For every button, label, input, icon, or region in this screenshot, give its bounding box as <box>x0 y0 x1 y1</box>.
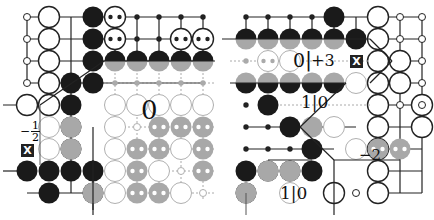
white-stone <box>105 7 126 28</box>
gray-half-stone <box>236 39 257 50</box>
dot-mark <box>205 125 209 129</box>
black-stone <box>17 161 38 182</box>
dot-mark <box>139 169 143 173</box>
dot-mark <box>139 147 143 151</box>
black-half-stone <box>324 29 345 39</box>
small-point <box>265 14 270 19</box>
faded-white-stone <box>105 95 126 116</box>
small-point <box>287 146 292 151</box>
dot-mark <box>205 147 209 151</box>
dot-mark <box>183 125 187 129</box>
black-half-stone <box>258 29 279 39</box>
dot-mark <box>196 169 200 173</box>
small-white-point <box>397 102 404 109</box>
black-stone <box>302 139 323 160</box>
black-half-stone <box>258 83 279 94</box>
gray-stone <box>61 139 82 160</box>
black-half-stone <box>236 29 257 39</box>
black-stone <box>39 183 60 204</box>
white-stone <box>105 29 126 50</box>
dot-mark <box>108 15 112 19</box>
left-board-x-marker: X <box>21 144 34 157</box>
gray-half-stone <box>105 61 126 72</box>
black-stone <box>39 161 60 182</box>
gray-half-stone <box>280 73 301 84</box>
small-white-point <box>419 14 426 21</box>
white-stone <box>39 7 60 28</box>
small-white-point <box>419 36 426 43</box>
small-white-point <box>200 190 207 197</box>
dot-mark <box>117 37 121 41</box>
small-white-point <box>24 80 31 87</box>
dot-mark <box>161 147 165 151</box>
white-stone <box>368 183 389 204</box>
black-stone <box>83 29 104 50</box>
gray-half-stone <box>171 61 192 72</box>
small-point <box>309 14 314 19</box>
dot-mark <box>205 37 209 41</box>
left-board-fraction-half: 1 2 <box>31 120 40 143</box>
small-point <box>243 102 248 107</box>
small-point <box>265 124 270 129</box>
gray-stone <box>149 183 170 204</box>
dot-mark <box>196 147 200 151</box>
small-point <box>134 14 139 19</box>
dot-mark <box>402 147 406 151</box>
dot-mark <box>205 169 209 173</box>
gray-half-stone <box>127 61 148 72</box>
small-white-point <box>24 14 31 21</box>
gray-half-stone <box>149 61 170 71</box>
gray-stone <box>61 117 82 138</box>
small-white-point <box>419 80 426 87</box>
black-half-stone <box>193 51 214 61</box>
right-board-top-value-left: 0 <box>293 51 305 70</box>
dot-mark <box>117 15 121 19</box>
gray-stone <box>193 139 214 160</box>
white-stone <box>368 7 389 28</box>
small-point <box>134 36 139 41</box>
black-stone <box>280 117 301 138</box>
black-stone <box>83 7 104 28</box>
gray-half-stone <box>302 73 323 84</box>
small-white-point <box>134 124 141 131</box>
white-stone <box>39 29 60 50</box>
small-point <box>134 80 139 85</box>
gray-stone <box>302 117 323 138</box>
small-point <box>156 80 161 85</box>
small-white-point <box>397 14 404 21</box>
gray-half-stone <box>193 61 214 72</box>
gray-half-stone <box>280 39 301 50</box>
gray-stone <box>193 117 214 138</box>
faded-white-stone <box>171 183 192 204</box>
gray-stone <box>149 139 170 160</box>
small-point <box>243 146 248 151</box>
small-white-point <box>419 58 426 65</box>
fraction-denominator: 2 <box>32 131 39 144</box>
dot-mark <box>174 37 178 41</box>
gray-half-stone <box>324 39 345 50</box>
right-board-bottom-value: 1|0 <box>280 185 307 202</box>
small-point <box>178 14 183 19</box>
faded-white-stone <box>324 117 345 138</box>
white-stone <box>193 29 214 50</box>
dot-mark <box>130 169 134 173</box>
gray-half-stone <box>258 73 279 84</box>
go-diagram-figure: 0 − 1 2 X 0 | +3 X 1|0 −2 1|0 <box>0 0 434 220</box>
faded-white-stone <box>258 51 279 72</box>
white-stone <box>39 51 60 72</box>
black-stone <box>258 95 279 116</box>
gray-stone <box>258 161 279 182</box>
white-stone <box>39 73 60 94</box>
black-stone <box>61 161 82 182</box>
small-white-point <box>24 36 31 43</box>
faded-white-stone <box>346 73 367 94</box>
left-board-minus-sign: − <box>20 125 30 137</box>
small-white-point <box>353 190 360 197</box>
dot-mark <box>108 37 112 41</box>
right-board-top-value-right: +3 <box>311 53 335 69</box>
dot-mark <box>174 125 178 129</box>
faded-white-stone <box>39 139 60 160</box>
gray-stone <box>127 183 148 204</box>
black-half-stone <box>280 29 301 39</box>
small-white-point <box>24 58 31 65</box>
